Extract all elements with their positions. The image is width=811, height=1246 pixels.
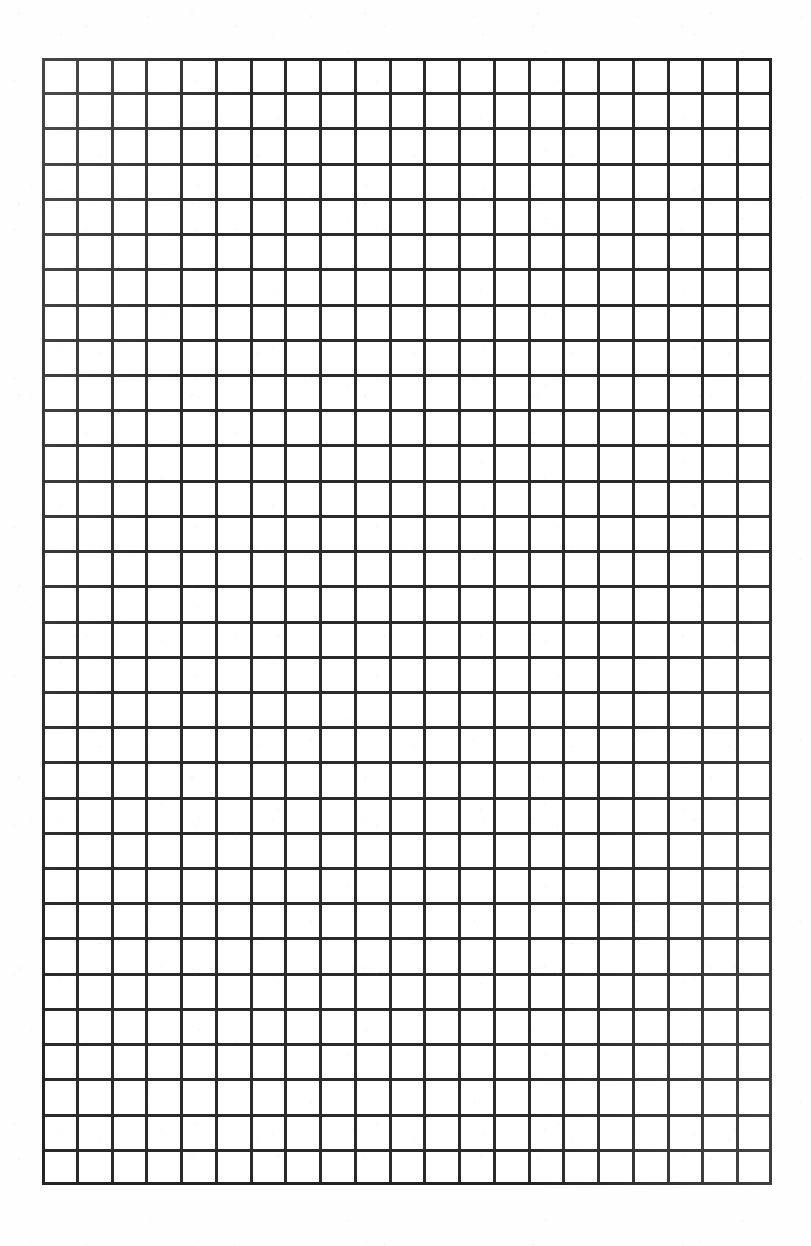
scanned-page (0, 0, 811, 1246)
grid-lines (42, 58, 772, 1185)
grid-horizontal-lines (42, 94, 772, 1151)
cropped-header-strip (0, 0, 811, 12)
grid-table (42, 58, 772, 1185)
